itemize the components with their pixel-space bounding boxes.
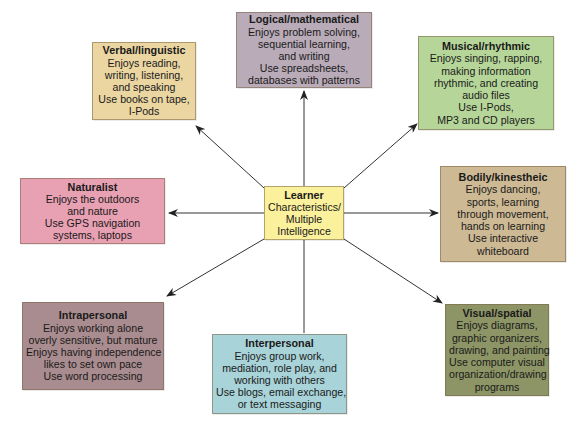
node-text: and nature [24,205,161,217]
node-interpersonal: Interpersonal Enjoys group work, mediati… [212,334,347,414]
node-text: working with others [216,374,343,386]
node-title: Verbal/linguistic [96,44,192,56]
node-center-learner: Learner Characteristics/ Multiple Intell… [264,186,344,240]
node-bodily: Bodily/kinestheic Enjoys dancing, sports… [440,166,566,262]
node-text: making information [422,65,550,77]
node-text: Enjoys dancing, [444,183,562,195]
node-text: Enjoys singing, rapping, [422,52,550,64]
node-text: sequential learning, [240,38,368,50]
node-text: graphic organizers, [449,332,545,344]
node-text: and speaking [96,81,192,93]
node-text: Use spreadsheets, [240,62,368,74]
node-text: drawing, and painting [449,344,545,356]
node-text: writing, listening, [96,69,192,81]
node-text: mediation, role play, and [216,362,343,374]
node-text: audio files [422,89,550,101]
arrow-to-visual [344,239,442,303]
node-text: overly sensitive, but mature [26,334,160,346]
node-text: Use blogs, email exchange, [216,386,343,398]
node-text: MP3 and CD players [422,114,550,126]
node-text: Use word processing [26,370,160,382]
node-text: Use interactive [444,232,562,244]
node-text: Enjoys diagrams, [449,319,545,331]
node-text: through movement, [444,208,562,220]
center-text: Characteristics/ [268,201,340,213]
node-text: Enjoys having independence [26,346,160,358]
node-text: Enjoys problem solving, [240,26,368,38]
node-text: Use books on tape, [96,93,192,105]
node-title: Bodily/kinestheic [444,171,562,183]
node-text: Enjoys reading, [96,57,192,69]
node-text: organization/drawing [449,368,545,380]
node-text: sports, learning [444,196,562,208]
node-logical: Logical/mathematical Enjoys problem solv… [236,12,372,88]
node-text: whiteboard [444,245,562,257]
node-visual: Visual/spatial Enjoys diagrams, graphic … [445,304,549,396]
node-naturalist: Naturalist Enjoys the outdoors and natur… [20,178,165,244]
node-intrapersonal: Intrapersonal Enjoys working alone overl… [22,302,164,390]
node-text: systems, laptops [24,229,161,241]
node-text: and writing [240,50,368,62]
node-title: Musical/rhythmic [422,40,550,52]
node-text: Use computer visual [449,356,545,368]
arrow-to-verbal [196,126,264,188]
node-title: Intrapersonal [26,309,160,321]
node-text: programs [449,381,545,393]
center-title: Learner [268,189,340,201]
node-verbal: Verbal/linguistic Enjoys reading, writin… [92,42,196,120]
center-text: Intelligence [268,225,340,237]
node-text: or text messaging [216,398,343,410]
arrow-to-intrapersonal [167,239,264,296]
node-musical: Musical/rhythmic Enjoys singing, rapping… [418,36,554,130]
node-text: databases with patterns [240,74,368,86]
node-text: Use I-Pods, [422,101,550,113]
node-text: hands on learning [444,220,562,232]
node-text: likes to set own pace [26,358,160,370]
node-title: Naturalist [24,181,161,193]
node-text: Use GPS navigation [24,217,161,229]
node-text: Enjoys working alone [26,322,160,334]
node-title: Visual/spatial [449,307,545,319]
arrow-to-musical [344,124,417,188]
node-title: Logical/mathematical [240,13,368,25]
node-text: Enjoys group work, [216,350,343,362]
node-text: Enjoys the outdoors [24,193,161,205]
node-title: Interpersonal [216,337,343,349]
node-text: I-Pods [96,105,192,117]
node-text: rhythmic, and creating [422,77,550,89]
center-text: Multiple [268,213,340,225]
